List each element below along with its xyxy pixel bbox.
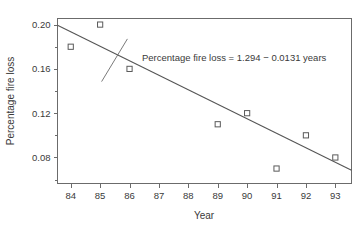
data-point-marker <box>98 22 103 27</box>
data-point-marker <box>215 122 220 127</box>
regression-fit-line <box>58 25 352 170</box>
y-axis-ticks <box>54 26 58 181</box>
regression-equation-label: Percentage fire loss = 1.294 − 0.0131 ye… <box>142 52 327 63</box>
x-tick-label-1: 85 <box>95 190 106 201</box>
annotation-leader-line <box>102 39 128 82</box>
x-axis-ticks <box>72 184 336 188</box>
y-axis-tick-labels: 0.080.120.160.20 <box>32 19 51 163</box>
x-tick-label-0: 84 <box>65 190 76 201</box>
x-tick-label-3: 87 <box>154 190 165 201</box>
x-tick-label-6: 90 <box>242 190 253 201</box>
x-axis-title: Year <box>194 210 215 221</box>
data-point-marker <box>245 111 250 116</box>
x-tick-label-9: 93 <box>330 190 341 201</box>
y-axis-title: Percentage fire loss <box>5 57 16 145</box>
x-tick-label-2: 86 <box>124 190 135 201</box>
y-tick-label-0: 0.08 <box>32 152 51 163</box>
plot-frame <box>58 19 352 184</box>
data-point-marker <box>333 155 338 160</box>
y-tick-label-1: 0.12 <box>32 108 51 119</box>
x-tick-label-4: 88 <box>183 190 194 201</box>
data-point-marker <box>303 133 308 138</box>
x-tick-label-5: 89 <box>212 190 223 201</box>
x-tick-label-8: 92 <box>301 190 312 201</box>
y-tick-label-2: 0.16 <box>32 63 51 74</box>
y-tick-label-3: 0.20 <box>32 19 51 30</box>
scatter-plot-canvas: 0.080.120.160.20 84858687888990919293 Pe… <box>0 0 364 229</box>
data-point-marker <box>127 66 132 71</box>
data-point-marker <box>68 44 73 49</box>
x-tick-label-7: 91 <box>271 190 282 201</box>
chart-figure: 0.080.120.160.20 84858687888990919293 Pe… <box>0 0 364 229</box>
data-point-marker <box>274 166 279 171</box>
x-axis-tick-labels: 84858687888990919293 <box>65 190 340 201</box>
